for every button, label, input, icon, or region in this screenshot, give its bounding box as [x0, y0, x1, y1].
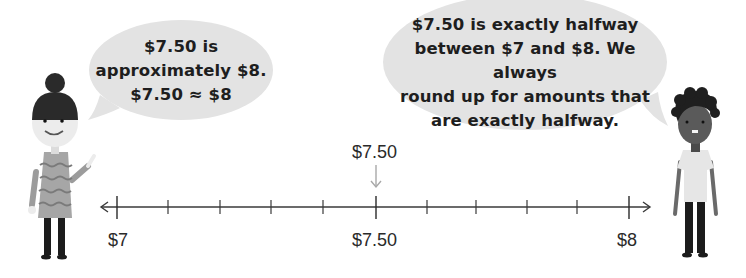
- bubble-line: approximately $8.: [90, 59, 272, 83]
- bubble-line: $7.50 is: [90, 35, 272, 59]
- tick-label-start: $7: [108, 230, 128, 251]
- bubble-line: are exactly halfway.: [383, 109, 667, 133]
- bubble-line: between $7 and $8. We always: [383, 37, 667, 85]
- marker-label: $7.50: [352, 142, 397, 163]
- bubble-line: round up for amounts that: [383, 85, 667, 109]
- girl-figure-icon: [28, 73, 94, 260]
- tick-label-end: $8: [617, 230, 637, 251]
- bubble-line: $7.50 ≈ $8: [90, 83, 272, 107]
- bubble-line: $7.50 is exactly halfway: [383, 13, 667, 37]
- tick-label-mid: $7.50: [352, 230, 397, 251]
- boy-speech-text: $7.50 is exactly halfway between $7 and …: [383, 13, 667, 133]
- boy-figure-icon: [671, 87, 720, 258]
- number-line: [101, 196, 650, 219]
- marker-down-arrow-icon: [371, 165, 381, 187]
- girl-speech-text: $7.50 is approximately $8. $7.50 ≈ $8: [90, 35, 272, 107]
